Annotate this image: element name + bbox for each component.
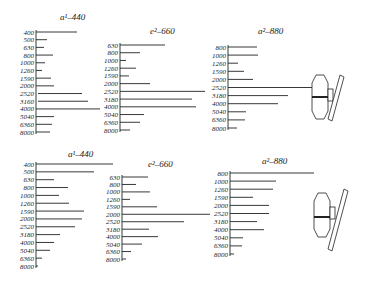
frequency-label: 800 xyxy=(24,184,35,192)
frequency-label: 8000 xyxy=(20,263,35,271)
spectrum-diagram: a¹–4404005006308001000126015902000252031… xyxy=(0,0,371,283)
frequency-label: 1260 xyxy=(212,60,227,68)
panel-title: a²–880 xyxy=(258,26,284,36)
frequency-label: 6360 xyxy=(214,242,229,250)
panel-title: a²–880 xyxy=(262,156,288,166)
frequency-label: 5040 xyxy=(214,234,229,242)
frequency-label: 3180 xyxy=(19,231,35,239)
frequency-label: 2000 xyxy=(214,202,229,210)
frequency-label: 6360 xyxy=(212,116,227,124)
panel-title: a¹–440 xyxy=(60,12,86,22)
panel-title: a¹–440 xyxy=(68,149,94,159)
instrument-sketch-bottom xyxy=(314,189,348,251)
frequency-label: 800 xyxy=(216,44,227,52)
frequency-label: 1000 xyxy=(212,52,227,60)
frequency-label: 3180 xyxy=(211,92,227,100)
instrument-sketch-top xyxy=(312,75,344,121)
frequency-label: 1260 xyxy=(214,186,229,194)
frequency-label: 800 xyxy=(218,170,229,178)
frequency-label: 400 xyxy=(24,161,35,169)
frequency-label: 2000 xyxy=(212,76,227,84)
frequency-label: 5040 xyxy=(20,247,35,255)
frequency-label: 8000 xyxy=(20,129,35,137)
frequency-label: 1590 xyxy=(212,68,227,76)
frequency-label: 4000 xyxy=(212,100,227,108)
frequency-label: 500 xyxy=(24,168,35,176)
panel-bottom-left: a¹–4404005006308001000126015902000252031… xyxy=(19,149,113,271)
frequency-label: 5040 xyxy=(212,108,227,116)
frequency-label: 2520 xyxy=(214,210,229,218)
panel-bottom-right: a²–8808001000126015902000252031804000504… xyxy=(213,156,314,259)
frequency-label: 3180 xyxy=(213,218,229,226)
frequency-label: 1000 xyxy=(214,178,229,186)
frequency-label: 4000 xyxy=(20,239,35,247)
frequency-label: 8000 xyxy=(106,256,121,264)
frequency-label: 8000 xyxy=(104,127,119,135)
frequency-label: 2000 xyxy=(20,215,35,223)
frequency-label: 2520 xyxy=(20,223,35,231)
frequency-label: 1260 xyxy=(20,200,35,208)
panel-top-middle: e²–6606308001000126015902000252031804000… xyxy=(103,26,205,135)
frequency-label: 8000 xyxy=(212,125,227,133)
frequency-label: 1000 xyxy=(20,192,35,200)
frequency-label: 4000 xyxy=(214,226,229,234)
frequency-label: 8000 xyxy=(214,251,229,259)
frequency-label: 1590 xyxy=(214,194,229,202)
frequency-label: 630 xyxy=(24,176,35,184)
panel-title: e²–660 xyxy=(148,159,173,169)
panel-top-right: a²–8808001000126015902000252031804000504… xyxy=(211,26,312,133)
panel-top-left: a¹–4404005006308001000126015902000252031… xyxy=(19,12,100,137)
panel-bottom-middle: e²–6606308001000126015902000252031804000… xyxy=(105,159,210,264)
frequency-label: 6360 xyxy=(20,255,35,263)
panel-title: e²–660 xyxy=(150,26,175,36)
frequency-label: 1590 xyxy=(20,208,35,216)
frequency-label: 2520 xyxy=(212,84,227,92)
